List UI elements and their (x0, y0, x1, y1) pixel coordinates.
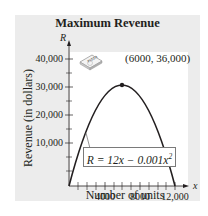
x-tick-8000: 8000 (130, 191, 150, 202)
y-tick-30000: 30,000 (36, 81, 64, 92)
y-tick-40000: 40,000 (36, 53, 64, 64)
y-tick-10000: 10,000 (36, 137, 64, 148)
x-axis: x 4000 8000 12,000 (69, 180, 198, 202)
y-axis: R 40,000 30,000 20,000 10,000 (36, 32, 74, 186)
equation-exponent: 2 (168, 152, 172, 161)
revenue-curve (69, 85, 175, 186)
equation-text: R = 12x − 0.001x (87, 154, 169, 166)
x-axis-symbol: x (192, 180, 198, 191)
x-axis-arrow-icon (183, 184, 189, 188)
pizza-box-icon: PIZZA (78, 53, 104, 71)
chart-canvas: R 40,000 30,000 20,000 10,000 x 4000 (0, 0, 208, 216)
x-tick-4000: 4000 (95, 191, 115, 202)
maximum-point-label: (6000, 36,000) (125, 52, 190, 65)
equation-callout: R = 12x − 0.001x2 (83, 147, 176, 167)
y-axis-arrow-icon (67, 40, 71, 46)
y-axis-symbol: R (59, 32, 66, 43)
x-tick-12000: 12,000 (161, 191, 189, 202)
maximum-point-marker (120, 83, 124, 87)
y-tick-20000: 20,000 (36, 109, 64, 120)
